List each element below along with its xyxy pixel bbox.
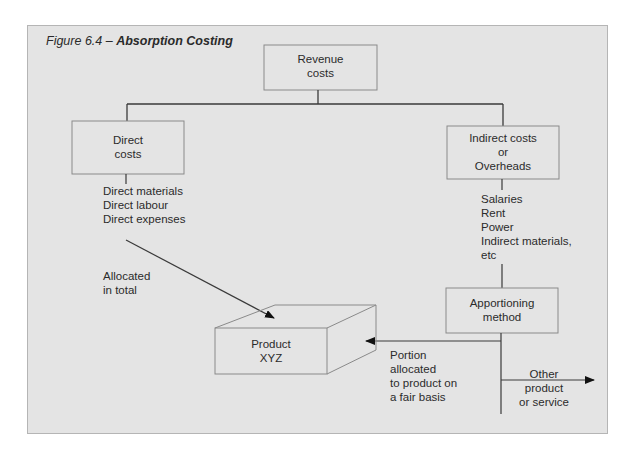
- revenue-line2: costs: [264, 66, 377, 80]
- list-item: Rent: [481, 206, 572, 220]
- other-line3: or service: [508, 395, 580, 409]
- list-item: Direct expenses: [103, 212, 185, 226]
- portion-line3: to product on: [390, 376, 457, 390]
- direct-items-list: Direct materials Direct labour Direct ex…: [103, 184, 185, 226]
- list-item: Indirect materials,: [481, 234, 572, 248]
- list-item: Salaries: [481, 192, 572, 206]
- direct-line2: costs: [72, 147, 184, 161]
- indirect-line3: Overheads: [447, 159, 559, 173]
- product-line2: XYZ: [215, 351, 327, 365]
- portion-line4: a fair basis: [390, 390, 457, 404]
- direct-costs-label: Direct costs: [72, 133, 184, 161]
- list-item: Direct labour: [103, 198, 185, 212]
- indirect-line2: or: [447, 145, 559, 159]
- product-line1: Product: [215, 337, 327, 351]
- list-item: etc: [481, 248, 572, 262]
- indirect-items-list: Salaries Rent Power Indirect materials, …: [481, 192, 572, 262]
- portion-line2: allocated: [390, 362, 457, 376]
- allocated-line2: in total: [103, 283, 150, 297]
- other-product-label: Other product or service: [508, 367, 580, 409]
- direct-line1: Direct: [72, 133, 184, 147]
- revenue-costs-label: Revenue costs: [264, 52, 377, 80]
- list-item: Power: [481, 220, 572, 234]
- revenue-line1: Revenue: [264, 52, 377, 66]
- allocated-line1: Allocated: [103, 269, 150, 283]
- product-xyz-label: Product XYZ: [215, 337, 327, 365]
- apportioning-line1: Apportioning: [446, 296, 558, 310]
- apportioning-method-label: Apportioning method: [446, 296, 558, 324]
- portion-label: Portion allocated to product on a fair b…: [390, 348, 457, 404]
- other-line1: Other: [508, 367, 580, 381]
- portion-line1: Portion: [390, 348, 457, 362]
- indirect-costs-label: Indirect costs or Overheads: [447, 131, 559, 173]
- allocated-label: Allocated in total: [103, 269, 150, 297]
- list-item: Direct materials: [103, 184, 185, 198]
- indirect-line1: Indirect costs: [447, 131, 559, 145]
- other-line2: product: [508, 381, 580, 395]
- apportioning-line2: method: [446, 310, 558, 324]
